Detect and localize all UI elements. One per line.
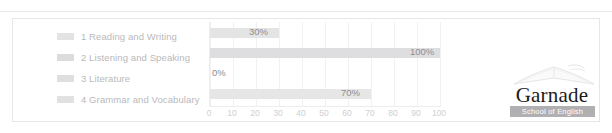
bar-row[interactable]: 70% bbox=[210, 89, 440, 99]
x-tick-label: 90 bbox=[411, 108, 420, 118]
legend-item-label: 1 Reading and Writing bbox=[81, 31, 177, 42]
x-tick-label: 30 bbox=[273, 108, 282, 118]
legend-swatch-icon bbox=[57, 54, 74, 61]
x-tick-label: 80 bbox=[388, 108, 397, 118]
bar-value-label: 30% bbox=[249, 26, 268, 37]
x-tick-label: 70 bbox=[365, 108, 374, 118]
bar-value-label: 0% bbox=[212, 67, 226, 78]
chart-card: 1 Reading and Writing 2 Listening and Sp… bbox=[12, 18, 600, 122]
legend-item-label: 4 Grammar and Vocabulary bbox=[81, 94, 200, 105]
legend-item[interactable]: 1 Reading and Writing bbox=[57, 27, 209, 46]
bar-fill bbox=[210, 48, 440, 58]
chart-legend: 1 Reading and Writing 2 Listening and Sp… bbox=[57, 27, 209, 111]
legend-swatch-icon bbox=[57, 75, 74, 82]
legend-item[interactable]: 4 Grammar and Vocabulary bbox=[57, 90, 209, 109]
x-tick-label: 60 bbox=[342, 108, 351, 118]
x-tick-label: 10 bbox=[227, 108, 236, 118]
bar-row[interactable]: 0% bbox=[210, 69, 440, 79]
x-tick-label: 100 bbox=[432, 108, 446, 118]
x-axis: 0102030405060708090100 bbox=[209, 107, 441, 121]
bar-row[interactable]: 100% bbox=[210, 48, 440, 58]
gridline bbox=[440, 22, 441, 106]
logo-wordmark: Garnade bbox=[504, 84, 600, 106]
x-tick-label: 40 bbox=[296, 108, 305, 118]
legend-item-label: 3 Literature bbox=[81, 73, 130, 84]
legend-item[interactable]: 3 Literature bbox=[57, 69, 209, 88]
legend-swatch-icon bbox=[57, 96, 74, 103]
bar-fill bbox=[210, 28, 279, 38]
x-tick-label: 50 bbox=[319, 108, 328, 118]
plot-area: 30% 100% 0% 70% bbox=[209, 22, 441, 107]
top-divider bbox=[0, 11, 612, 12]
legend-swatch-icon bbox=[57, 33, 74, 40]
bar-series: 30% 100% 0% 70% bbox=[210, 22, 440, 106]
bar-value-label: 70% bbox=[341, 87, 360, 98]
x-tick-label: 0 bbox=[207, 108, 212, 118]
bar-row[interactable]: 30% bbox=[210, 28, 440, 38]
legend-item-label: 2 Listening and Speaking bbox=[81, 52, 190, 63]
logo-tagline-bar: School of English bbox=[510, 106, 595, 117]
school-logo: Garnade School of English bbox=[504, 64, 600, 122]
legend-item[interactable]: 2 Listening and Speaking bbox=[57, 48, 209, 67]
logo-tagline: School of English bbox=[522, 107, 583, 116]
bar-value-label: 100% bbox=[410, 46, 434, 57]
x-tick-label: 20 bbox=[250, 108, 259, 118]
